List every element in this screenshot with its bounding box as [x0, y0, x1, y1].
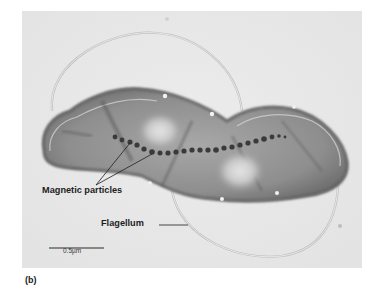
bacterium-illustration [22, 11, 362, 268]
flagellum-label: Flagellum [101, 218, 144, 228]
panel-label: (b) [25, 275, 37, 285]
magnetic-particles-label: Magnetic particles [42, 185, 122, 195]
scale-bar-label: 0.5µm [63, 247, 81, 254]
micrograph-image [22, 11, 362, 268]
